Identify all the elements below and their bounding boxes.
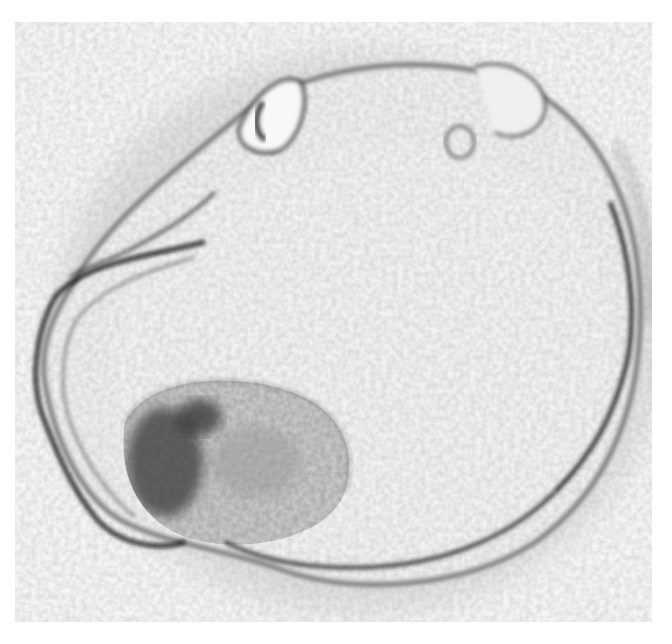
micrograph-image: Grayscale DIC micrograph of an embryo (b… — [15, 22, 652, 622]
embryo-illustration — [15, 22, 652, 622]
